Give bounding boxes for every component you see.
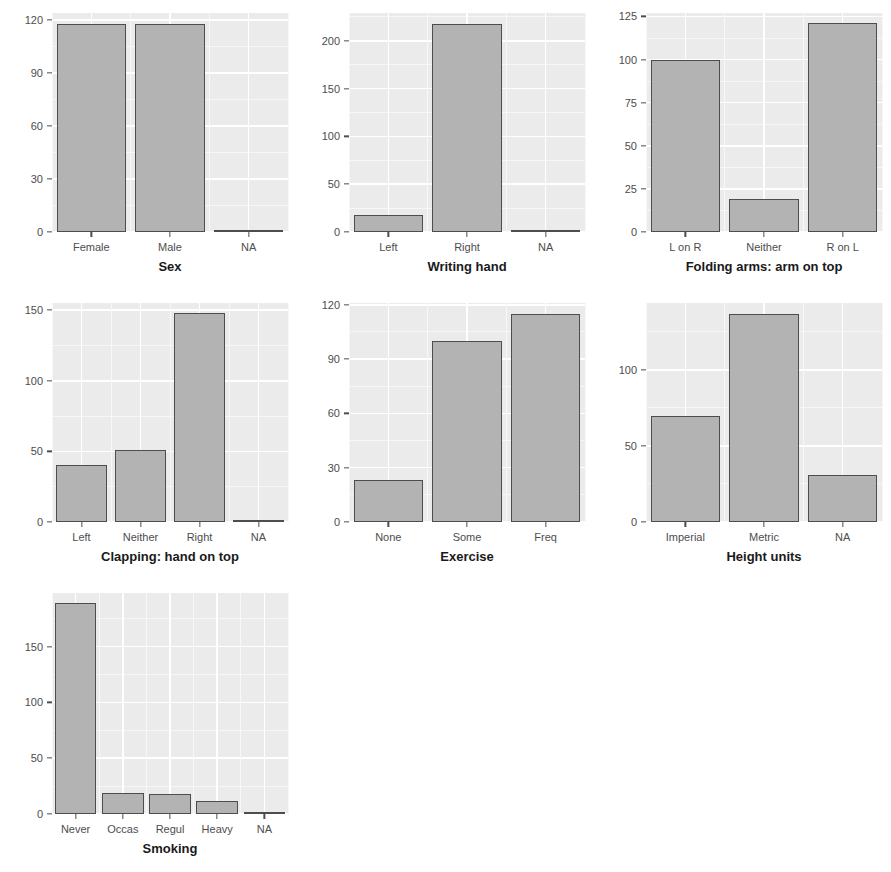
chart-height-units: 050100ImperialMetricNAHeight units — [594, 290, 891, 580]
bar-slot — [170, 303, 229, 522]
y-axis-tick-label: 100 — [322, 130, 340, 142]
y-axis-tick-mark — [47, 125, 52, 126]
bar-series — [52, 13, 288, 232]
y-axis-tick-mark — [47, 380, 52, 381]
facet-writing-hand: 050100150200LeftRightNAWriting hand — [297, 0, 594, 290]
x-axis-tick-label: Neither — [746, 241, 781, 253]
x-axis-tick-mark — [466, 522, 467, 527]
bar[interactable] — [432, 341, 501, 522]
x-axis-tick-mark — [545, 522, 546, 527]
y-axis-tick-label: 60 — [31, 120, 43, 132]
chart-clapping: 050100150LeftNeitherRightNAClapping: han… — [0, 290, 297, 580]
bar-series — [349, 13, 585, 232]
bar[interactable] — [729, 199, 798, 232]
chart-writing-hand: 050100150200LeftRightNAWriting hand — [297, 0, 594, 290]
bar-series — [646, 303, 882, 522]
facet-folding-arms: 0255075100125L on RNeitherR on LFolding … — [594, 0, 891, 290]
bar[interactable] — [196, 801, 238, 814]
x-axis-tick-label: Right — [187, 531, 213, 543]
y-axis-tick-label: 0 — [37, 226, 43, 238]
x-axis-tick-mark — [264, 814, 265, 819]
y-axis-tick-label: 50 — [625, 140, 637, 152]
bar[interactable] — [57, 24, 126, 232]
x-axis-title: Sex — [158, 259, 181, 274]
y-axis-tick-label: 0 — [37, 516, 43, 528]
x-axis-tick-label: Heavy — [202, 823, 233, 835]
bar[interactable] — [149, 794, 191, 814]
bar[interactable] — [651, 416, 720, 522]
bar[interactable] — [808, 23, 877, 232]
bar-slot — [146, 593, 193, 814]
y-axis-tick-label: 0 — [334, 516, 340, 528]
bar-slot — [506, 13, 585, 232]
bar[interactable] — [115, 450, 167, 522]
y-axis-tick-mark — [47, 19, 52, 20]
bar-slot — [209, 13, 288, 232]
bar[interactable] — [511, 314, 580, 522]
y-axis-tick-mark — [344, 184, 349, 185]
y-axis-tick-mark — [641, 59, 646, 60]
facet-row-2: 050100150LeftNeitherRightNAClapping: han… — [0, 290, 891, 580]
x-axis-title: Exercise — [440, 549, 494, 564]
y-axis-tick-label: 30 — [31, 173, 43, 185]
x-axis-tick-label: NA — [257, 823, 272, 835]
bar-series — [646, 13, 882, 232]
facet-clapping: 050100150LeftNeitherRightNAClapping: han… — [0, 290, 297, 580]
facet-row-1: 0306090120FemaleMaleNASex 050100150200Le… — [0, 0, 891, 290]
y-axis-tick-mark — [641, 188, 646, 189]
y-axis-tick-label: 50 — [31, 445, 43, 457]
bar[interactable] — [808, 475, 877, 522]
facet-sex: 0306090120FemaleMaleNASex — [0, 0, 297, 290]
bar[interactable] — [651, 60, 720, 232]
x-axis-tick-label: Some — [453, 531, 482, 543]
bar[interactable] — [354, 215, 423, 232]
x-axis-title: Height units — [726, 549, 801, 564]
y-axis-tick-label: 125 — [619, 10, 637, 22]
y-axis-tick-label: 100 — [619, 364, 637, 376]
bar[interactable] — [102, 793, 144, 814]
bar[interactable] — [56, 465, 108, 522]
y-axis-tick-mark — [641, 521, 646, 522]
x-axis-tick-mark — [258, 522, 259, 527]
bar-slot — [646, 303, 725, 522]
y-axis-tick-mark — [47, 451, 52, 452]
x-axis-title: Writing hand — [427, 259, 506, 274]
y-axis-tick-mark — [47, 758, 52, 759]
bar-slot — [99, 593, 146, 814]
y-axis-tick-mark — [641, 16, 646, 17]
y-axis-tick-mark — [47, 178, 52, 179]
chart-folding-arms: 0255075100125L on RNeitherR on LFolding … — [594, 0, 891, 290]
x-axis-tick-mark — [199, 522, 200, 527]
bar[interactable] — [135, 24, 204, 232]
y-axis-tick-mark — [47, 702, 52, 703]
y-axis-tick-label: 30 — [328, 462, 340, 474]
bar-slot — [803, 303, 882, 522]
y-axis-tick-mark — [641, 231, 646, 232]
x-axis-tick-mark — [685, 522, 686, 527]
bar[interactable] — [432, 24, 501, 232]
y-axis-tick-mark — [47, 231, 52, 232]
y-axis-tick-label: 150 — [25, 304, 43, 316]
bar-slot — [111, 303, 170, 522]
x-axis-tick-label: Never — [61, 823, 90, 835]
bar[interactable] — [55, 603, 97, 814]
bar-series — [52, 303, 288, 522]
bar-slot — [349, 303, 428, 522]
y-axis-tick-mark — [641, 369, 646, 370]
x-axis-tick-label: Metric — [749, 531, 779, 543]
bar[interactable] — [174, 313, 226, 522]
bar-slot — [428, 303, 507, 522]
x-axis-tick-label: Female — [73, 241, 110, 253]
y-axis-tick-label: 120 — [25, 14, 43, 26]
bar[interactable] — [729, 314, 798, 522]
y-axis-tick-label: 150 — [25, 641, 43, 653]
y-axis-tick-mark — [47, 646, 52, 647]
bar[interactable] — [354, 480, 423, 522]
facet-exercise: 0306090120NoneSomeFreqExercise — [297, 290, 594, 580]
bar-slot — [725, 13, 804, 232]
x-axis-tick-label: Freq — [534, 531, 557, 543]
y-axis-tick-mark — [344, 413, 349, 414]
y-axis-tick-label: 75 — [625, 97, 637, 109]
bar-slot — [241, 593, 288, 814]
x-axis-tick-label: NA — [241, 241, 256, 253]
